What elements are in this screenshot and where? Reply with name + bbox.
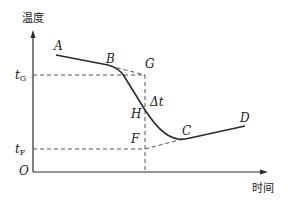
cooling-curve-diagram: 温度 时间 O tG tF A B G Δt H C D F xyxy=(0,0,289,202)
point-F-label: F xyxy=(131,133,139,145)
point-C-label: C xyxy=(182,125,191,137)
y-axis-label: 温度 xyxy=(22,13,44,24)
point-H-label: H xyxy=(131,108,141,120)
x-axis-label: 时间 xyxy=(252,183,274,194)
tG-label: tG xyxy=(15,69,26,83)
origin-label: O xyxy=(19,165,29,177)
tG-sub: G xyxy=(20,74,26,83)
y-axis-arrow-icon xyxy=(31,30,36,38)
tF-label: tF xyxy=(15,143,25,157)
point-B-label: B xyxy=(106,53,115,65)
delta-t-label: Δt xyxy=(150,96,164,108)
FC-tangent-dashed xyxy=(145,139,183,149)
x-axis-arrow-icon xyxy=(260,170,268,175)
tF-sub: F xyxy=(20,148,26,157)
point-D-label: D xyxy=(240,112,250,124)
point-G-label: G xyxy=(145,58,155,70)
diagram-canvas xyxy=(0,0,289,202)
point-A-label: A xyxy=(54,40,63,52)
